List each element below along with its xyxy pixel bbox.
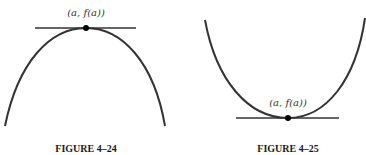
concave-down-curve [5, 28, 165, 126]
max-point-label: (a, f(a)) [67, 7, 105, 18]
figure-4-25: (a, f(a)) FIGURE 4–25 [205, 18, 365, 154]
max-point [83, 25, 89, 31]
figure-4-24: (a, f(a)) FIGURE 4–24 [5, 7, 165, 154]
figure-caption-4-24: FIGURE 4–24 [55, 143, 116, 154]
min-point [285, 115, 291, 121]
min-point-label: (a, f(a)) [269, 97, 307, 108]
figures-canvas: (a, f(a)) FIGURE 4–24 (a, f(a)) FIGURE 4… [0, 0, 366, 155]
figure-caption-4-25: FIGURE 4–25 [257, 143, 318, 154]
